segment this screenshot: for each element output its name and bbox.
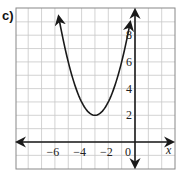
- parabola-graph: −6−4−20 2468 x: [0, 0, 185, 177]
- parabola-curve: [59, 17, 131, 116]
- y-tick-label: 8: [126, 28, 132, 42]
- x-tick-label: −4: [73, 145, 86, 159]
- x-axis-label: x: [165, 143, 172, 157]
- grid-lines: [16, 8, 175, 169]
- x-tick-label: −2: [100, 145, 113, 159]
- x-tick-labels: −6−4−20: [47, 145, 131, 159]
- x-tick-label: −6: [47, 145, 60, 159]
- x-tick-label: 0: [125, 145, 131, 159]
- y-tick-label: 6: [126, 55, 132, 69]
- y-tick-label: 2: [126, 108, 132, 122]
- y-tick-label: 4: [126, 82, 132, 96]
